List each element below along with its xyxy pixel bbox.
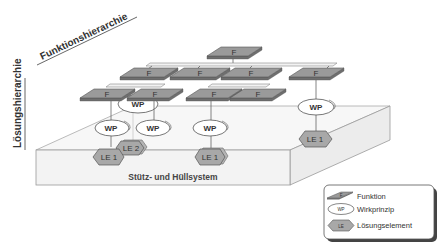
function-node-l3-2: F <box>127 89 183 101</box>
function-hierarchy-label: Funktionshierarchie <box>38 10 129 61</box>
svg-text:F: F <box>232 48 237 57</box>
svg-text:LE 1: LE 1 <box>101 153 118 162</box>
working-principle-2: WP <box>136 120 171 136</box>
function-hierarchy-axis: Funktionshierarchie <box>37 10 137 65</box>
svg-text:WP: WP <box>147 124 161 133</box>
svg-text:WP: WP <box>204 124 218 133</box>
legend-item-working-principle: WP Wirkprinzip <box>328 204 394 215</box>
solution-element-le1-c: LE 1 <box>299 131 332 147</box>
legend-label-function: Funktion <box>357 192 386 201</box>
connector-bar-level3-right <box>208 84 270 87</box>
support-system-label: Stütz- und Hüllsystem <box>128 172 218 182</box>
support-system-box: Stütz- und Hüllsystem <box>36 106 390 185</box>
hierarchy-diagram: Funktionshierarchie Lösungshierarchie St… <box>0 0 441 252</box>
function-node-l2-4: F <box>289 68 344 80</box>
svg-text:F: F <box>314 69 319 78</box>
legend: F Funktion WP Wirkprinzip LE Lösungselem… <box>324 185 437 242</box>
legend-label-working-principle: Wirkprinzip <box>357 205 394 214</box>
svg-text:LE 1: LE 1 <box>307 135 324 144</box>
svg-text:LE 2: LE 2 <box>123 144 140 153</box>
svg-text:WP: WP <box>337 207 344 212</box>
svg-text:F: F <box>249 69 254 78</box>
svg-text:WP: WP <box>132 100 146 109</box>
working-principle-3: WP <box>193 120 228 136</box>
working-principle-4: WP <box>298 99 335 115</box>
solution-element-le1-a: LE 1 <box>93 149 124 165</box>
connector-bar-level2 <box>146 63 337 66</box>
function-node-l2-1: F <box>120 68 178 80</box>
working-principle-1: WP <box>95 120 130 136</box>
svg-text:F: F <box>105 90 110 99</box>
svg-text:LE 1: LE 1 <box>202 153 219 162</box>
solution-element-le1-b: LE 1 <box>195 148 228 165</box>
svg-text:F: F <box>212 90 217 99</box>
svg-text:F: F <box>198 69 203 78</box>
solution-hierarchy-label: Lösungshierarchie <box>12 58 23 148</box>
solution-hierarchy-axis: Lösungshierarchie <box>12 58 25 150</box>
svg-text:LE: LE <box>338 224 344 229</box>
svg-text:F: F <box>256 90 261 99</box>
function-hierarchy-line <box>37 17 137 65</box>
legend-label-solution-element: Lösungselement <box>357 221 413 230</box>
connector-bar-level3-left <box>106 84 165 87</box>
svg-text:F: F <box>153 90 158 99</box>
svg-text:WP: WP <box>105 124 119 133</box>
function-node-root: F <box>207 47 262 59</box>
svg-text:F: F <box>147 69 152 78</box>
legend-item-solution-element: LE Lösungselement <box>328 220 413 231</box>
svg-text:WP: WP <box>310 103 324 112</box>
svg-text:F: F <box>340 193 343 198</box>
